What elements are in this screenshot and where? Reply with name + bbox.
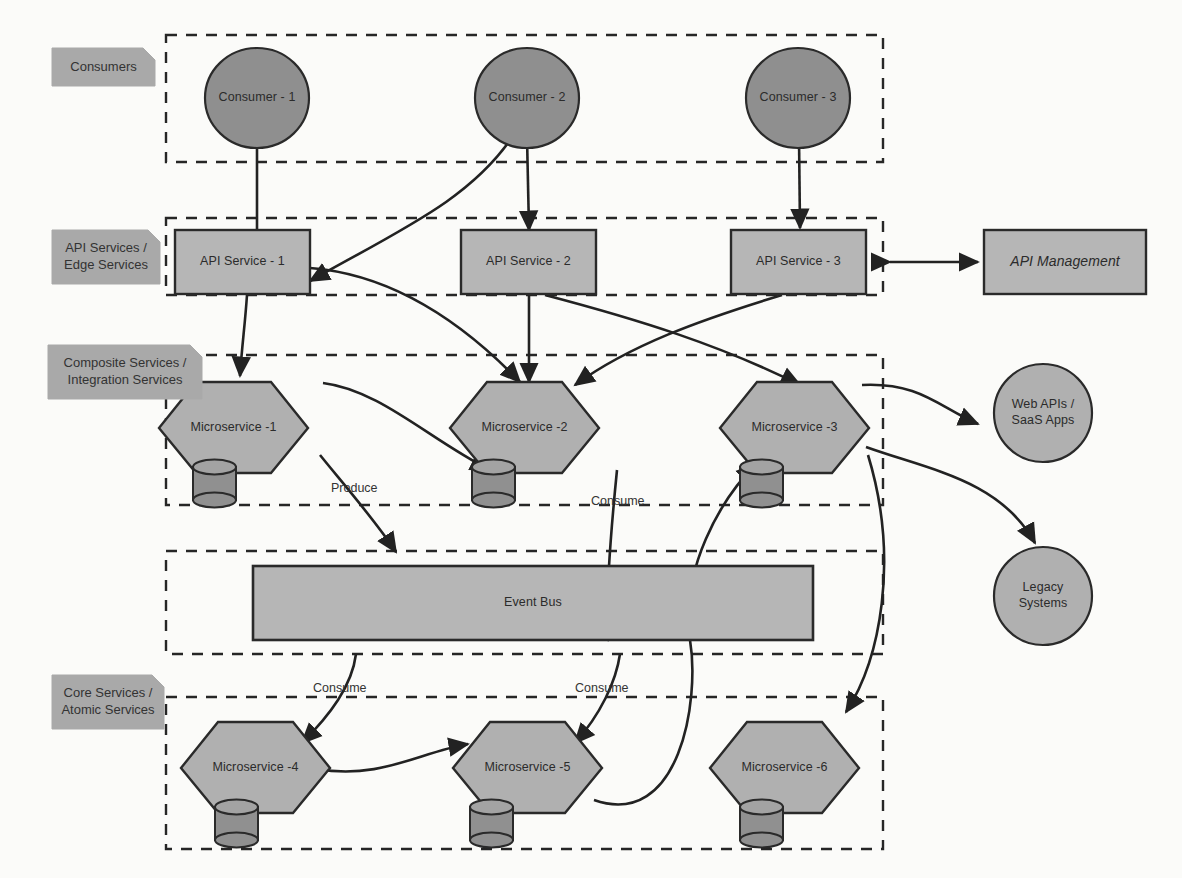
edge-consumer2-to-api2 bbox=[527, 137, 529, 230]
microservice-5-database-icon bbox=[470, 800, 513, 848]
event-bus-shape-group bbox=[253, 566, 813, 640]
composite-microservice-shapes bbox=[159, 382, 869, 508]
tag-core-services-line2: Atomic Services bbox=[61, 702, 154, 719]
legacy-systems-shape bbox=[994, 547, 1092, 645]
edge-label-consume-ms4: Consume bbox=[313, 681, 367, 695]
core-microservice-shapes bbox=[181, 722, 859, 848]
edge-label-produce: Produce bbox=[331, 481, 378, 495]
event-bus-shape bbox=[253, 566, 813, 640]
tag-consumers: Consumers bbox=[52, 48, 155, 86]
edge-label-consume-ms2: Consume bbox=[591, 494, 645, 508]
api-service-1-shape bbox=[175, 230, 310, 294]
external-system-shapes bbox=[994, 364, 1092, 645]
consumer-2-shape bbox=[475, 48, 579, 148]
microservice-3-database-icon bbox=[740, 460, 783, 508]
api-service-shapes bbox=[175, 230, 1146, 294]
tag-core-services: Core Services / Atomic Services bbox=[52, 675, 164, 729]
edge-eventbus-to-ms5-consume bbox=[575, 654, 620, 743]
consumer-shapes bbox=[205, 48, 850, 148]
edge-api1-to-ms1 bbox=[240, 295, 247, 376]
edge-api2-to-ms3 bbox=[545, 295, 800, 385]
tag-core-services-line1: Core Services / bbox=[64, 685, 153, 702]
consumer-1-shape bbox=[205, 48, 309, 148]
tag-api-services-line2: Edge Services bbox=[64, 257, 148, 274]
microservice-1-database-icon bbox=[193, 460, 236, 508]
edge-ms1-to-eventbus-produce bbox=[320, 455, 396, 552]
edge-ms3-to-webapis bbox=[862, 385, 978, 424]
tag-composite-services-line1: Composite Services / bbox=[64, 355, 187, 372]
tag-composite-services: Composite Services / Integration Service… bbox=[48, 345, 202, 399]
microservice-6-shape bbox=[710, 722, 859, 813]
tag-api-services-line1: API Services / bbox=[65, 240, 147, 257]
tag-api-services: API Services / Edge Services bbox=[52, 230, 160, 284]
api-service-3-shape bbox=[731, 230, 866, 294]
consumer-3-shape bbox=[746, 48, 850, 148]
architecture-diagram: Consumers API Services / Edge Services C… bbox=[0, 0, 1182, 878]
edge-eventbus-to-ms4-consume bbox=[302, 654, 356, 743]
edge-ms4-to-ms5 bbox=[317, 744, 468, 772]
edge-label-consume-ms5: Consume bbox=[575, 681, 629, 695]
diagram-canvas bbox=[0, 0, 1182, 878]
microservice-2-database-icon bbox=[472, 460, 515, 508]
api-management-shape bbox=[984, 230, 1146, 294]
edge-consumer3-to-api3 bbox=[799, 137, 800, 228]
connectors bbox=[240, 136, 1035, 804]
microservice-3-shape bbox=[720, 382, 869, 473]
web-apis-saas-apps-shape bbox=[994, 364, 1092, 462]
tag-composite-services-line2: Integration Services bbox=[68, 372, 183, 389]
tag-consumers-label: Consumers bbox=[70, 59, 136, 76]
microservice-4-database-icon bbox=[215, 800, 258, 848]
microservice-6-database-icon bbox=[740, 800, 783, 848]
api-service-2-shape bbox=[461, 230, 596, 294]
edge-api3-to-ms2 bbox=[575, 295, 782, 385]
edge-ms3-to-legacy bbox=[866, 447, 1035, 543]
edge-ms3-to-ms6 bbox=[846, 455, 884, 712]
